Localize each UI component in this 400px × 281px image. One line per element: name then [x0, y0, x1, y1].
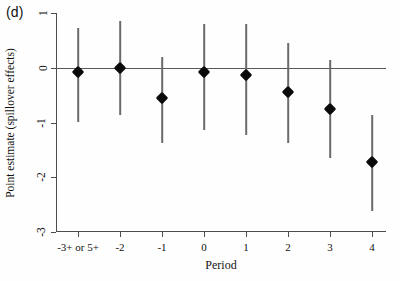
y-tick: [51, 123, 56, 124]
chart-figure: (d) Point estimate (spillover effects) 1…: [0, 0, 400, 281]
y-tick-label-text: 1: [37, 10, 49, 16]
x-tick-label: -1: [157, 241, 166, 253]
x-tick: [120, 232, 121, 237]
y-tick: [51, 177, 56, 178]
data-point-marker: [366, 156, 379, 169]
y-tick-label-text: 0: [37, 65, 49, 71]
data-point-marker: [240, 68, 253, 81]
x-tick-label: 3: [327, 241, 333, 253]
y-tick-label: -1: [36, 117, 46, 129]
x-tick: [78, 232, 79, 237]
data-point-marker: [156, 92, 169, 105]
x-axis-line: [56, 231, 386, 232]
x-axis-title: Period: [56, 258, 386, 273]
data-point-marker: [282, 86, 295, 99]
x-tick: [204, 232, 205, 237]
y-tick-label-text: -1: [35, 118, 47, 128]
x-tick: [330, 232, 331, 237]
plot-area: 10-1-2-3 -3+ or 5+-2-101234: [56, 13, 386, 232]
x-tick: [162, 232, 163, 237]
x-tick-label: -3+ or 5+: [57, 241, 99, 253]
x-tick: [372, 232, 373, 237]
y-tick-label-text: -2: [35, 172, 47, 182]
y-tick: [51, 68, 56, 69]
zero-reference-line: [56, 68, 386, 69]
y-tick-label: -2: [36, 171, 46, 183]
y-tick: [51, 13, 56, 14]
x-tick-label: 2: [285, 241, 291, 253]
x-tick-label: 0: [201, 241, 207, 253]
y-tick-label-text: -3: [35, 227, 47, 237]
x-tick: [288, 232, 289, 237]
data-point-marker: [324, 103, 337, 116]
y-axis-title-text: Point estimate (spillover effects): [4, 48, 16, 198]
x-tick: [246, 232, 247, 237]
y-tick-label: -3: [36, 226, 46, 238]
data-point-marker: [114, 61, 127, 74]
y-tick-label: 0: [40, 62, 46, 74]
x-tick-label: 4: [369, 241, 375, 253]
x-tick-label: 1: [243, 241, 249, 253]
y-tick: [51, 232, 56, 233]
y-axis-title: Point estimate (spillover effects): [2, 13, 18, 232]
y-axis-line: [56, 13, 57, 232]
x-tick-label: -2: [115, 241, 124, 253]
y-tick-label: 1: [40, 7, 46, 19]
